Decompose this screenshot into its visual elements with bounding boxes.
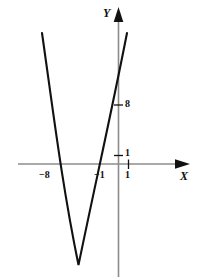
y-axis-arrow-icon — [114, 7, 124, 22]
plot-canvas — [0, 0, 203, 277]
x-axis-arrow-icon — [175, 159, 190, 169]
graph-figure: −8 −1 8 1 1 Y X — [0, 0, 203, 277]
x-tick-label-1: 1 — [125, 170, 130, 180]
y-tick-label-1: 1 — [125, 148, 130, 158]
x-axis-label: X — [180, 170, 188, 182]
x-tick-label-neg1: −1 — [94, 170, 105, 180]
x-tick-label-neg8: −8 — [39, 170, 50, 180]
parabola-curve — [42, 33, 127, 265]
y-axis-label: Y — [103, 7, 110, 19]
y-tick-label-8: 8 — [125, 99, 130, 109]
